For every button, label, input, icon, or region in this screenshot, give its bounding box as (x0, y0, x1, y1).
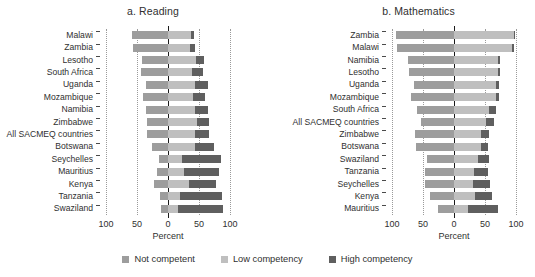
bar-segment-high-competency (498, 56, 500, 64)
category-tick (382, 68, 386, 69)
category-label: Namibia (61, 105, 93, 114)
bar-segment-low-competency (454, 118, 486, 126)
x-tick-label: 50 (418, 219, 428, 229)
category-tick (382, 81, 386, 82)
bar-group (106, 68, 230, 76)
category-tick (382, 155, 386, 156)
bar-segment-high-competency (195, 143, 214, 151)
chart-title-reading: a. Reading (0, 5, 268, 17)
bar-segment-high-competency (498, 68, 500, 76)
bar-group (106, 93, 230, 101)
bar-segment-low-competency (168, 143, 195, 151)
bar-segment-high-competency (486, 118, 494, 126)
category-tick (382, 93, 386, 94)
bar-segment-low-competency (168, 130, 195, 138)
category-tick (382, 192, 386, 193)
category-label: Botswana (55, 142, 93, 151)
bar-segment-not-competent (414, 81, 454, 89)
bar-segment-high-competency (489, 106, 495, 114)
category-tick (96, 143, 100, 144)
bar-segment-not-competent (421, 118, 454, 126)
category-tick (96, 44, 100, 45)
bar-segment-high-competency (190, 44, 194, 52)
x-tick-label: 0 (165, 219, 170, 229)
category-label: Seychelles (51, 155, 93, 164)
bar-group (392, 44, 516, 52)
bar-segment-not-competent (143, 93, 168, 101)
bar-segment-low-competency (454, 130, 481, 138)
category-labels-reading: MalawiZambiaLesothoSouth AfricaUgandaMoz… (0, 29, 101, 215)
category-tick (96, 180, 100, 181)
bar-segment-high-competency (468, 205, 498, 213)
x-axis-title-mathematics: Percent (392, 231, 516, 241)
gridline (516, 29, 518, 215)
bar-segment-high-competency (475, 192, 492, 200)
bar-segment-low-competency (454, 56, 498, 64)
category-tick (382, 205, 386, 206)
x-axis-title-reading: Percent (106, 231, 230, 241)
bar-segment-not-competent (425, 168, 454, 176)
bar-group (106, 192, 230, 200)
category-tick (96, 192, 100, 193)
bar-segment-not-competent (147, 118, 168, 126)
figure-root: a. Reading MalawiZambiaLesothoSouth Afri… (0, 0, 535, 277)
x-tick-label: 100 (508, 219, 523, 229)
category-tick (96, 68, 100, 69)
bar-group (392, 155, 516, 163)
category-tick (96, 130, 100, 131)
plot-area-mathematics (392, 29, 516, 215)
x-tick-label: 0 (451, 219, 456, 229)
bar-group (106, 81, 230, 89)
bar-segment-not-competent (411, 93, 454, 101)
category-label: Swaziland (54, 204, 93, 213)
category-tick (382, 118, 386, 119)
category-label: Uganda (349, 80, 379, 89)
category-tick (96, 205, 100, 206)
x-axis-mathematics: Percent 10050050100 (392, 219, 516, 239)
bar-segment-low-competency (168, 168, 184, 176)
category-label: Malawi (352, 43, 379, 52)
bar-group (392, 143, 516, 151)
legend-swatch-icon (122, 256, 129, 263)
legend-item-low[interactable]: Low competency (221, 254, 303, 264)
bar-segment-low-competency (168, 93, 193, 101)
bar-segment-low-competency (454, 192, 475, 200)
bar-group (392, 93, 516, 101)
bar-segment-high-competency (180, 192, 222, 200)
bar-segment-not-competent (141, 68, 168, 76)
legend: Not competentLow competencyHigh competen… (0, 254, 535, 264)
bar-segment-low-competency (168, 180, 189, 188)
category-label: Seychelles (337, 180, 379, 189)
bar-group (106, 143, 230, 151)
legend-item-not[interactable]: Not competent (122, 254, 194, 264)
category-tick (96, 155, 100, 156)
category-label: Mauritius (58, 167, 93, 176)
category-label: Lesotho (62, 56, 93, 65)
bar-group (106, 205, 230, 213)
category-label: Tanzania (59, 192, 93, 201)
category-tick (382, 31, 386, 32)
bar-group (106, 106, 230, 114)
category-label: Mozambique (330, 93, 379, 102)
bar-segment-not-competent (160, 192, 168, 200)
bar-segment-high-competency (512, 44, 513, 52)
bar-group (392, 56, 516, 64)
chart-title-mathematics: b. Mathematics (268, 5, 535, 17)
bar-segment-not-competent (146, 106, 168, 114)
legend-item-high[interactable]: High competency (329, 254, 413, 264)
bar-group (106, 56, 230, 64)
bar-segment-high-competency (195, 130, 209, 138)
category-tick (382, 130, 386, 131)
bar-segment-low-competency (454, 31, 514, 39)
bar-segment-high-competency (478, 155, 490, 163)
category-tick (382, 180, 386, 181)
bar-segment-not-competent (430, 192, 454, 200)
bar-segment-high-competency (193, 93, 205, 101)
bar-segment-not-competent (142, 56, 168, 64)
category-label: Namibia (347, 56, 379, 65)
bar-segment-high-competency (182, 155, 221, 163)
category-label: Kenya (69, 180, 93, 189)
bar-segment-high-competency (195, 106, 208, 114)
category-tick (96, 106, 100, 107)
bar-segment-high-competency (195, 81, 207, 89)
